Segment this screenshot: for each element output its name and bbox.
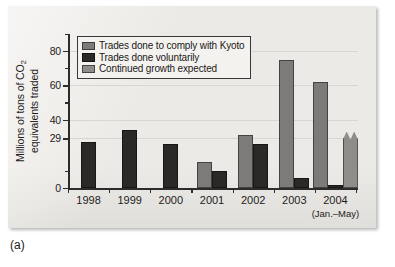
- x-axis-label-1999: 1999: [117, 194, 141, 206]
- y-axis-title-line2: equivalents traded: [28, 69, 40, 153]
- bar-2002-voluntary: [253, 144, 268, 188]
- bar-2003-voluntary: [294, 178, 309, 188]
- legend-swatch-voluntary: [82, 53, 95, 62]
- x-axis-sublabel-2004: (Jan.–May): [312, 208, 360, 219]
- figure-caption: (a): [10, 238, 25, 252]
- y-tick-label-60: 60: [50, 79, 61, 91]
- bar-2003-kyoto: [279, 60, 294, 188]
- y-tick-minor-50: [65, 102, 68, 103]
- x-tick-5: [274, 188, 275, 193]
- bar-2004-kyoto: [313, 82, 328, 188]
- x-tick-1: [109, 188, 110, 193]
- chart-legend: Trades done to comply with Kyoto Trades …: [77, 36, 251, 79]
- y-tick-29: [63, 138, 68, 139]
- legend-swatch-expected: [82, 65, 95, 74]
- x-tick-4: [233, 188, 234, 193]
- y-axis-title-line1: Millions of tons of CO2: [14, 60, 26, 162]
- y-tick-minor-70: [65, 68, 68, 69]
- y-tick-label-40: 40: [50, 114, 61, 126]
- bar-1998-voluntary: [81, 142, 96, 188]
- x-tick-end: [356, 188, 357, 193]
- x-axis-label-2000: 2000: [159, 194, 183, 206]
- x-axis-label-2002: 2002: [241, 194, 265, 206]
- y-tick-60: [63, 85, 68, 86]
- x-axis-label-2001: 2001: [200, 194, 224, 206]
- x-axis-label-1998: 1998: [76, 194, 100, 206]
- legend-item-voluntary: Trades done voluntarily: [82, 52, 244, 64]
- x-tick-6: [315, 188, 316, 193]
- bar-2000-voluntary: [163, 144, 178, 188]
- legend-item-kyoto: Trades done to comply with Kyoto: [82, 40, 244, 52]
- x-tick-0: [68, 188, 69, 193]
- legend-label-kyoto: Trades done to comply with Kyoto: [99, 40, 244, 51]
- y-tick-label-80: 80: [50, 45, 61, 57]
- y-axis-title: Millions of tons of CO2 equivalents trad…: [14, 34, 36, 188]
- x-tick-3: [191, 188, 192, 193]
- x-axis-label-2003: 2003: [282, 194, 306, 206]
- y-tick-40: [63, 120, 68, 121]
- bar-2002-kyoto: [238, 135, 253, 188]
- y-tick-80: [63, 51, 68, 52]
- x-axis-label-2004: 2004: [323, 194, 347, 206]
- co2-subscript: 2: [19, 60, 28, 64]
- figure-container: Millions of tons of CO2 equivalents trad…: [0, 0, 395, 267]
- bar-2001-voluntary: [212, 171, 227, 188]
- bar-2004-expected: [343, 132, 358, 188]
- legend-label-expected: Continued growth expected: [99, 63, 217, 74]
- legend-swatch-kyoto: [82, 42, 95, 51]
- y-tick-label-29: 29: [50, 132, 61, 144]
- bar-1999-voluntary: [122, 130, 137, 188]
- legend-label-voluntary: Trades done voluntarily: [99, 52, 199, 63]
- y-tick-label-0: 0: [55, 182, 61, 194]
- y-tick-minor-90: [65, 34, 68, 35]
- y-tick-minor-10: [65, 171, 68, 172]
- bar-2004-voluntary: [328, 185, 343, 188]
- legend-item-expected: Continued growth expected: [82, 63, 244, 75]
- bar-2001-kyoto: [197, 162, 212, 188]
- y-axis-line: [68, 34, 70, 188]
- x-tick-2: [150, 188, 151, 193]
